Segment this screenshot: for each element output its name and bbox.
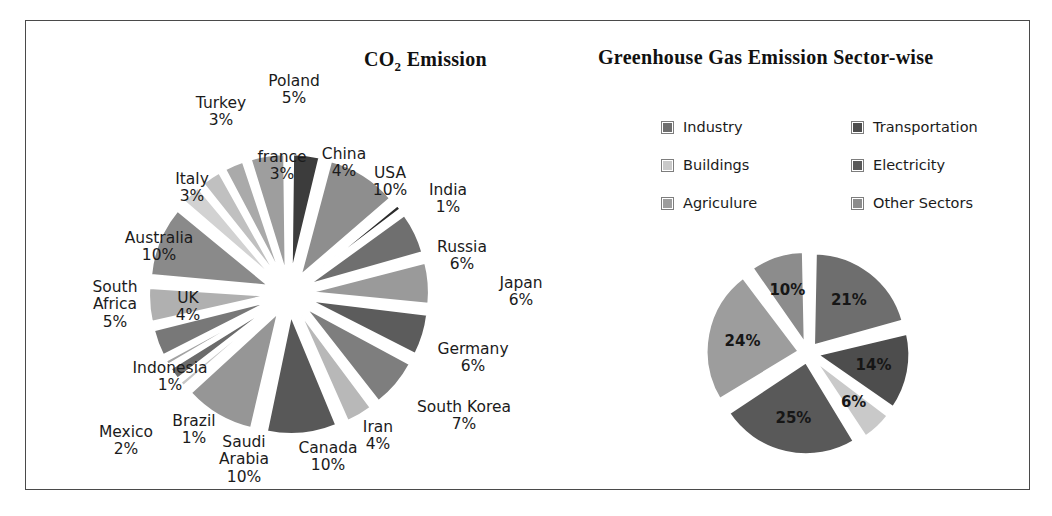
- legend-swatch-icon: [851, 197, 864, 210]
- legend-swatch-icon: [661, 159, 674, 172]
- pie-label-usa: USA 10%: [359, 165, 421, 200]
- pie-label-australia: Australia 10%: [107, 230, 211, 265]
- pie-slice-value-industry: 21%: [831, 291, 867, 309]
- pie-slice-value-buildings: 6%: [841, 393, 866, 411]
- legend-item-electricity[interactable]: Electricity: [851, 157, 1041, 173]
- legend-swatch-icon: [851, 121, 864, 134]
- pie-label-germany: Germany 6%: [424, 341, 522, 376]
- legend-label: Agriculure: [683, 195, 757, 211]
- right-chart-title: Greenhouse Gas Emission Sector-wise: [598, 46, 934, 69]
- pie-label-saudi-arabia: Saudi Arabia 10%: [204, 434, 284, 486]
- co2-emission-pie-chart: Poland 5%Turkey 3%france 3%China 4%Italy…: [54, 51, 574, 506]
- legend-item-industry[interactable]: Industry: [661, 119, 851, 135]
- pie-slice-value-agriculure: 24%: [725, 332, 761, 350]
- pie-label-russia: Russia 6%: [423, 239, 501, 274]
- legend-item-other-sectors[interactable]: Other Sectors: [851, 195, 1041, 211]
- legend-swatch-icon: [661, 121, 674, 134]
- pie-slice-value-other-sectors: 10%: [769, 281, 805, 299]
- pie-label-turkey: Turkey 3%: [178, 95, 264, 130]
- pie-label-indonesia: Indonesia 1%: [117, 360, 223, 395]
- legend-swatch-icon: [661, 197, 674, 210]
- pie-label-mexico: Mexico 2%: [86, 424, 166, 459]
- legend-item-agriculure[interactable]: Agriculure: [661, 195, 851, 211]
- legend-label: Electricity: [873, 157, 945, 173]
- pie-label-uk: UK 4%: [162, 290, 214, 325]
- chart-frame: CO2 Emission Greenhouse Gas Emission Sec…: [25, 20, 1030, 490]
- legend-label: Industry: [683, 119, 743, 135]
- ghg-sector-pie-chart: IndustryTransportationBuildingsElectrici…: [586, 81, 1052, 501]
- pie-slice-value-electricity: 25%: [776, 409, 812, 427]
- legend-label: Other Sectors: [873, 195, 973, 211]
- legend-label: Transportation: [873, 119, 978, 135]
- pie-slice-value-transportation: 14%: [856, 356, 892, 374]
- pie-label-italy: Italy 3%: [157, 171, 227, 206]
- legend-label: Buildings: [683, 157, 749, 173]
- pie-label-south-korea: South Korea 7%: [402, 399, 526, 434]
- pie-label-india: India 1%: [417, 182, 479, 217]
- pie-label-canada: Canada 10%: [282, 440, 374, 475]
- pie-label-south-africa: South Africa 5%: [78, 279, 152, 331]
- legend-item-transportation[interactable]: Transportation: [851, 119, 1041, 135]
- pie-label-japan: Japan 6%: [486, 275, 556, 310]
- ghg-sector-legend: IndustryTransportationBuildingsElectrici…: [661, 119, 1021, 211]
- legend-swatch-icon: [851, 159, 864, 172]
- legend-item-buildings[interactable]: Buildings: [661, 157, 851, 173]
